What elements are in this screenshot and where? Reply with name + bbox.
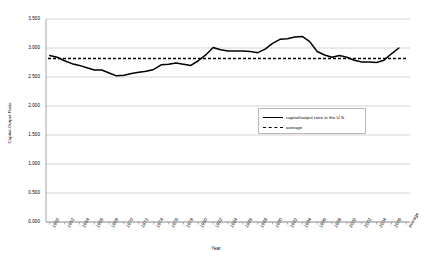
legend-dashed-line-icon	[263, 127, 283, 128]
x-axis-ticks	[50, 222, 407, 225]
legend-label-average: average	[286, 125, 302, 130]
legend-item-average: average	[263, 123, 302, 132]
chart-container: Capital-Output Ratio Year 0.0000.5001.00…	[0, 0, 428, 266]
chart-legend: capital/output ratio in the U.S. average	[258, 108, 366, 134]
legend-solid-line-icon	[263, 117, 283, 119]
legend-label-series: capital/output ratio in the U.S.	[286, 115, 345, 120]
legend-item-series: capital/output ratio in the U.S.	[263, 113, 345, 122]
data-series-capital-output-ratio	[50, 36, 399, 75]
